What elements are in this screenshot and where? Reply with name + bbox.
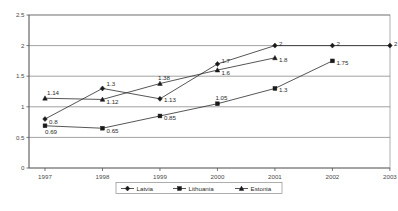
marker-lithuania-1998 (101, 126, 105, 130)
x-tick-label-2001: 2001 (268, 173, 282, 180)
data-label-estonia-1999: 1.38 (158, 74, 171, 81)
legend-label-estonia: Estonia (251, 185, 272, 192)
x-tick-label-2002: 2002 (326, 173, 340, 180)
data-label-lithuania-1999: 0.85 (164, 114, 177, 121)
data-label-lithuania-1997: 0.69 (45, 128, 58, 135)
data-label-lithuania-2001: 1.3 (279, 86, 288, 93)
data-label-latvia-2002: 2 (336, 40, 340, 47)
data-label-latvia-2000: 1.7 (221, 57, 230, 64)
x-tick-label-2003: 2003 (383, 173, 397, 180)
line-chart: 00.511.522.5 199719981999200020012002200… (0, 0, 398, 211)
marker-latvia-1997 (43, 117, 48, 122)
series-line-lithuania (45, 61, 332, 128)
data-label-latvia-1998: 1.3 (106, 80, 115, 87)
marker-lithuania-2001 (273, 87, 277, 91)
plot-area-border (29, 15, 390, 168)
chart-canvas: 00.511.522.5 199719981999200020012002200… (0, 0, 398, 211)
marker-lithuania-1999 (158, 114, 162, 118)
marker-latvia-2002 (330, 43, 335, 48)
data-label-latvia-1997: 0.8 (49, 118, 58, 125)
data-label-estonia-2001: 1.8 (279, 56, 288, 63)
marker-latvia-1998 (100, 86, 105, 91)
x-tick-label-1999: 1999 (153, 173, 167, 180)
data-label-estonia-1998: 1.12 (106, 98, 119, 105)
data-point-labels: 0.81.31.131.72220.690.650.851.051.31.751… (45, 40, 398, 135)
marker-lithuania-2002 (331, 59, 335, 63)
y-tick-label: 1.5 (16, 72, 25, 79)
plot-frame (29, 15, 390, 168)
series-lines (45, 46, 390, 129)
gridlines (29, 15, 390, 137)
data-label-lithuania-2000: 1.05 (215, 94, 228, 101)
legend-label-lithuania: Lithuania (189, 185, 215, 192)
marker-latvia-1999 (158, 96, 163, 101)
data-label-estonia-2000: 1.6 (221, 69, 230, 76)
y-tick-label: 2 (21, 42, 25, 49)
marker-latvia-2003 (388, 43, 393, 48)
x-tick-label-1998: 1998 (96, 173, 110, 180)
data-label-latvia-1999: 1.13 (164, 96, 177, 103)
x-tick-label-1997: 1997 (38, 173, 52, 180)
marker-lithuania-2000 (216, 102, 220, 106)
series-line-latvia (45, 46, 390, 119)
y-tick-label: 0.5 (16, 134, 25, 141)
y-axis: 00.511.522.5 (16, 11, 29, 171)
series-markers (43, 43, 393, 130)
y-tick-label: 1 (21, 103, 25, 110)
data-label-latvia-2001: 2 (279, 40, 283, 47)
legend-label-latvia: Latvia (137, 185, 154, 192)
legend-marker-lithuania (178, 187, 182, 191)
x-axis: 1997199819992000200120022003 (29, 168, 397, 180)
marker-lithuania-1997 (43, 124, 47, 128)
data-label-latvia-2003: 2 (394, 40, 398, 47)
data-label-lithuania-2002: 1.75 (336, 59, 349, 66)
y-tick-label: 2.5 (16, 11, 25, 18)
marker-latvia-2000 (215, 61, 220, 66)
x-tick-label-2000: 2000 (211, 173, 225, 180)
data-label-estonia-1997: 1.14 (47, 89, 60, 96)
chart-legend: LatviaLithuaniaEstonia (116, 183, 282, 194)
marker-estonia-2001 (273, 55, 278, 59)
data-label-lithuania-1998: 0.65 (106, 127, 119, 134)
y-tick-label: 0 (21, 164, 25, 171)
marker-latvia-2001 (273, 43, 278, 48)
